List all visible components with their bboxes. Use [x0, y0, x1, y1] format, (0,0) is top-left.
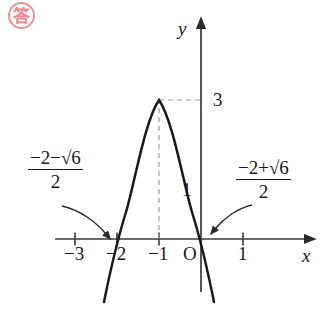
- left-root-label: −2−√6 2: [28, 148, 83, 192]
- left-root-pointer-arrow: [62, 206, 106, 234]
- right-root-numerator: −2+√6: [236, 158, 291, 180]
- x-tick-label--1: −1: [148, 243, 168, 265]
- origin-label: O: [183, 243, 197, 265]
- left-root-numerator: −2−√6: [28, 148, 83, 170]
- left-root-denominator: 2: [28, 170, 83, 192]
- y-value-label-1: 1: [182, 179, 192, 201]
- y-axis-label: y: [178, 18, 186, 40]
- parabola-figure: 答 y x −3 −2 −1 1 O: [0, 0, 327, 312]
- x-tick-label-1: 1: [238, 243, 248, 265]
- right-root-denominator: 2: [236, 180, 291, 202]
- right-root-label: −2+√6 2: [236, 158, 291, 202]
- x-axis-label: x: [302, 245, 310, 267]
- x-tick-label--2: −2: [106, 243, 126, 265]
- right-root-pointer-arrow: [215, 205, 252, 229]
- y-value-label-3: 3: [213, 89, 223, 111]
- x-tick-label--3: −3: [64, 243, 84, 265]
